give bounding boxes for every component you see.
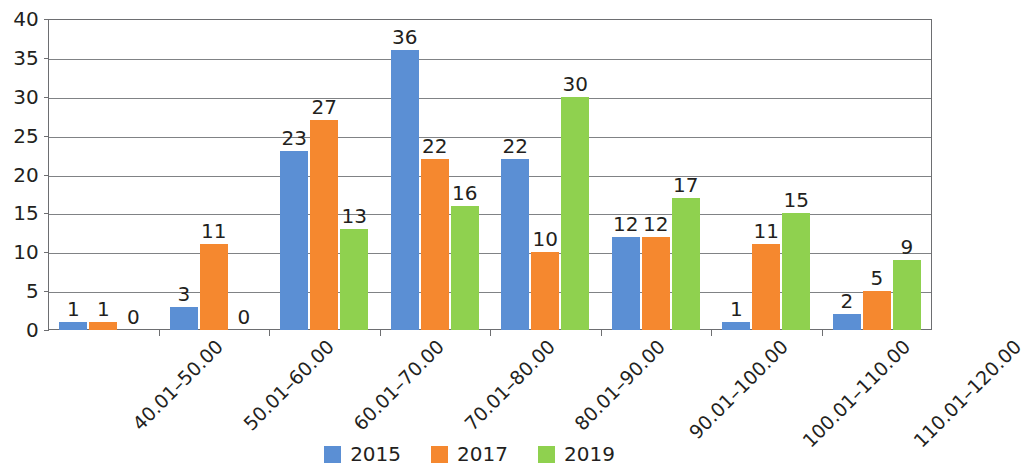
bar-rect[interactable]: [782, 213, 810, 330]
bar-2015-100.01–110.00[interactable]: 1: [722, 322, 750, 330]
bar-group: 3110: [159, 19, 270, 330]
bar-value-label: 23: [282, 128, 307, 148]
bar-2019-110.01–120.00[interactable]: 9: [893, 260, 921, 330]
bar-2015-80.01–90.00[interactable]: 22: [501, 159, 529, 330]
bar-rect[interactable]: [200, 244, 228, 330]
bar-2015-110.01–120.00[interactable]: 2: [833, 314, 861, 330]
y-axis-tick-label: 30: [13, 87, 39, 107]
bar-2019-40.01–50.00[interactable]: 0: [119, 329, 147, 330]
bar-rect[interactable]: [531, 252, 559, 330]
y-axis-tick-label: 10: [13, 242, 39, 262]
bar-2015-90.01–100.00[interactable]: 12: [612, 237, 640, 330]
bar-value-label: 2: [840, 291, 853, 311]
y-axis-tick-label: 0: [26, 320, 39, 340]
x-axis-category-label: 90.01–100.00: [685, 336, 792, 443]
bar-value-label: 13: [342, 206, 367, 226]
legend-swatch-icon: [431, 446, 448, 463]
bar-value-label: 30: [563, 74, 588, 94]
bar-value-label: 1: [97, 299, 110, 319]
bar-group: 259: [822, 19, 933, 330]
bar-rect[interactable]: [863, 291, 891, 330]
legend-label: 2019: [564, 444, 615, 464]
bar-value-label: 11: [754, 221, 779, 241]
y-axis-tick-mark: [44, 330, 49, 331]
bar-2015-40.01–50.00[interactable]: 1: [59, 322, 87, 330]
bar-group: 362216: [380, 19, 491, 330]
bar-value-label: 1: [67, 299, 80, 319]
legend-item-2015[interactable]: 2015: [324, 444, 401, 464]
bar-value-label: 22: [503, 136, 528, 156]
bar-value-label: 17: [673, 175, 698, 195]
bar-group: 110: [48, 19, 159, 330]
x-axis-category-label: 100.01–110.00: [799, 336, 915, 452]
bar-value-label: 0: [237, 307, 250, 327]
y-axis-tick-label: 35: [13, 48, 39, 68]
bar-rect[interactable]: [561, 97, 589, 330]
x-axis-labels: 40.01–50.0050.01–60.0060.01–70.0070.01–8…: [48, 332, 932, 442]
bar-2015-50.01–60.00[interactable]: 3: [170, 307, 198, 330]
y-axis-tick-label: 20: [13, 165, 39, 185]
bar-rect[interactable]: [340, 229, 368, 330]
bar-group: 11115: [711, 19, 822, 330]
x-axis-category-label: 40.01–50.00: [129, 336, 227, 434]
bar-2015-70.01–80.00[interactable]: 36: [391, 50, 419, 330]
y-axis-tick-label: 25: [13, 126, 39, 146]
bar-2017-70.01–80.00[interactable]: 22: [421, 159, 449, 330]
bar-2017-40.01–50.00[interactable]: 1: [89, 322, 117, 330]
bar-rect[interactable]: [391, 50, 419, 330]
x-axis-category-label: 110.01–120.00: [910, 336, 1025, 452]
legend-label: 2015: [350, 444, 401, 464]
legend: 201520172019: [0, 444, 939, 464]
bar-value-label: 22: [422, 136, 447, 156]
legend-item-2019[interactable]: 2019: [538, 444, 615, 464]
bar-rect[interactable]: [642, 237, 670, 330]
y-axis-tick-label: 15: [13, 203, 39, 223]
legend-item-2017[interactable]: 2017: [431, 444, 508, 464]
bar-2017-50.01–60.00[interactable]: 11: [200, 244, 228, 330]
bar-2019-80.01–90.00[interactable]: 30: [561, 97, 589, 330]
bar-value-label: 15: [784, 190, 809, 210]
bar-2019-90.01–100.00[interactable]: 17: [672, 198, 700, 330]
bar-2019-70.01–80.00[interactable]: 16: [451, 206, 479, 330]
y-axis: 0510152025303540: [0, 0, 48, 349]
bar-value-label: 12: [643, 214, 668, 234]
bar-group: 232713: [269, 19, 380, 330]
bar-value-label: 1: [730, 299, 743, 319]
bar-2019-60.01–70.00[interactable]: 13: [340, 229, 368, 330]
bar-2019-50.01–60.00[interactable]: 0: [230, 329, 258, 330]
bar-rect[interactable]: [672, 198, 700, 330]
bar-value-label: 16: [452, 183, 477, 203]
x-axis-category-label: 80.01–90.00: [571, 336, 669, 434]
x-axis-category-label: 50.01–60.00: [240, 336, 338, 434]
bar-value-label: 9: [900, 237, 913, 257]
bar-2017-80.01–90.00[interactable]: 10: [531, 252, 559, 330]
bar-2017-60.01–70.00[interactable]: 27: [310, 120, 338, 330]
bar-group: 221030: [490, 19, 601, 330]
bar-2019-100.01–110.00[interactable]: 15: [782, 213, 810, 330]
bar-value-label: 11: [201, 221, 226, 241]
x-axis-category-label: 70.01–80.00: [461, 336, 559, 434]
bar-rect[interactable]: [421, 159, 449, 330]
bar-rect[interactable]: [310, 120, 338, 330]
bar-2017-100.01–110.00[interactable]: 11: [752, 244, 780, 330]
bar-group: 121217: [601, 19, 712, 330]
bar-2015-60.01–70.00[interactable]: 23: [280, 151, 308, 330]
bar-rect[interactable]: [280, 151, 308, 330]
bar-rect[interactable]: [722, 322, 750, 330]
bar-rect[interactable]: [501, 159, 529, 330]
bar-value-label: 12: [613, 214, 638, 234]
bar-2017-110.01–120.00[interactable]: 5: [863, 291, 891, 330]
bar-value-label: 3: [177, 284, 190, 304]
y-axis-tick-label: 5: [26, 281, 39, 301]
bar-rect[interactable]: [59, 322, 87, 330]
bar-2017-90.01–100.00[interactable]: 12: [642, 237, 670, 330]
bar-rect[interactable]: [833, 314, 861, 330]
bar-rect[interactable]: [89, 322, 117, 330]
bar-rect[interactable]: [893, 260, 921, 330]
legend-label: 2017: [457, 444, 508, 464]
bar-rect[interactable]: [752, 244, 780, 330]
bar-rect[interactable]: [612, 237, 640, 330]
bar-rect[interactable]: [451, 206, 479, 330]
bar-rect[interactable]: [170, 307, 198, 330]
bar-value-label: 27: [312, 97, 337, 117]
